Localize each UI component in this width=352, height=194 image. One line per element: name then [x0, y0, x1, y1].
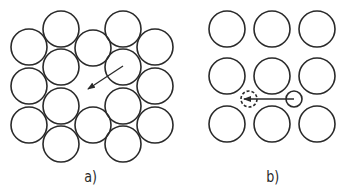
figure-a-label: a) — [84, 168, 97, 186]
diffusion-diagram — [0, 0, 352, 194]
atom-circle — [254, 58, 290, 94]
atom-circle — [254, 106, 290, 142]
atom-circle — [209, 58, 245, 94]
atom-circle — [137, 107, 173, 143]
atom-circle — [105, 126, 141, 162]
atom-circle — [299, 106, 335, 142]
figure-a-vacancy-diffusion — [11, 11, 173, 162]
atom-circle — [11, 29, 47, 65]
atom-circle — [105, 49, 141, 85]
figure-b-label: b) — [266, 168, 279, 186]
atom-circle — [43, 88, 79, 124]
atom-circle — [11, 68, 47, 104]
figure-b-interstitial-diffusion — [209, 11, 335, 142]
atom-circle — [209, 11, 245, 47]
atom-circle — [11, 107, 47, 143]
atom-circle — [43, 126, 79, 162]
atom-circle — [299, 11, 335, 47]
atom-circle — [43, 49, 79, 85]
atom-circle — [43, 11, 79, 47]
atom-circle — [254, 11, 290, 47]
atom-circle — [209, 106, 245, 142]
atom-circle — [105, 11, 141, 47]
atom-circle — [299, 58, 335, 94]
atom-circle — [137, 29, 173, 65]
atom-circle — [137, 68, 173, 104]
atom-circle — [105, 88, 141, 124]
